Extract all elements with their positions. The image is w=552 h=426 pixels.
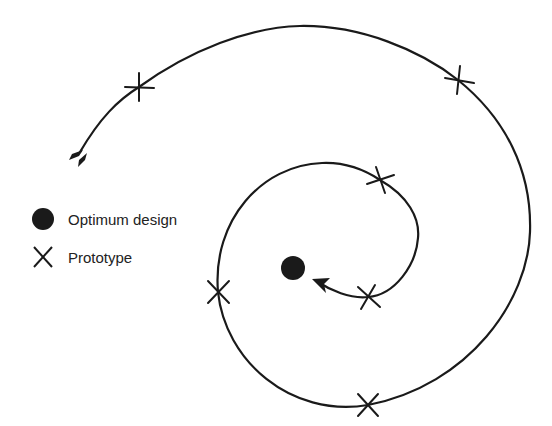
x-cross-icon [30,244,56,270]
optimum-design-dot [281,256,305,280]
arrowhead-icon [312,278,330,293]
prototype-x-icon [125,73,154,101]
legend-label: Optimum design [68,211,177,228]
filled-circle-icon [30,206,56,232]
legend: Optimum design Prototype [30,200,177,276]
legend-label: Prototype [68,249,132,266]
legend-item-optimum: Optimum design [30,200,177,238]
legend-item-prototype: Prototype [30,238,177,276]
arrow-fletching-icon [69,150,87,167]
prototype-markers [125,66,474,416]
prototype-x-icon [367,167,394,193]
